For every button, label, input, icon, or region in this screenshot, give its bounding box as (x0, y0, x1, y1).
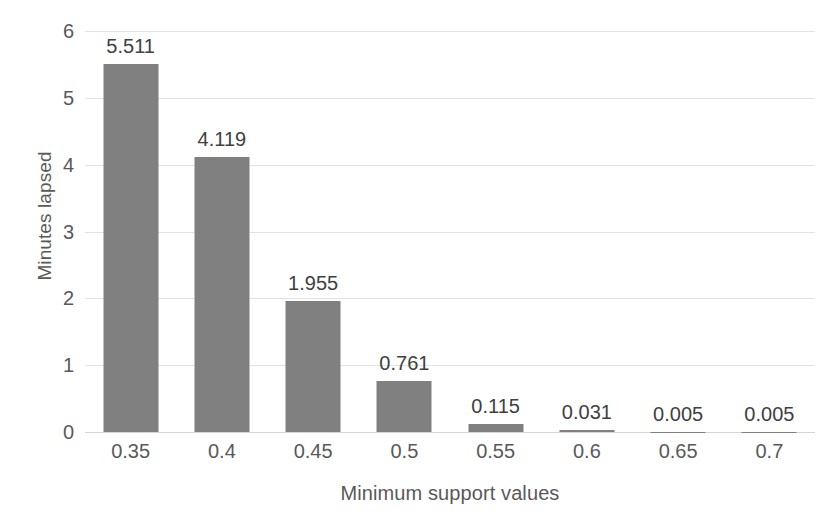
bar-value-label: 0.115 (471, 395, 520, 418)
y-axis-tick-labels: 0123456 (44, 31, 74, 432)
y-axis-tick-label: 1 (63, 354, 74, 377)
bar-value-label: 0.005 (744, 403, 794, 426)
bar-value-label: 0.761 (379, 352, 429, 375)
bar-value-label: 0.031 (562, 401, 612, 424)
y-axis-tick-label: 3 (63, 220, 74, 243)
bar-value-label: 5.511 (106, 35, 155, 58)
bar[interactable] (468, 424, 523, 432)
x-axis-tick-label: 0.7 (755, 440, 783, 463)
x-axis-tick-label: 0.35 (111, 440, 150, 463)
bars-layer: 5.5114.1191.9550.7610.1150.0310.0050.005 (85, 31, 815, 432)
x-axis-tick-label: 0.5 (390, 440, 418, 463)
bar[interactable] (377, 381, 432, 432)
bar-value-label: 0.005 (653, 403, 703, 426)
x-axis-tick-label: 0.6 (573, 440, 601, 463)
bar-group[interactable]: 0.005 (633, 31, 724, 432)
plot-area: 5.5114.1191.9550.7610.1150.0310.0050.005 (85, 31, 815, 432)
bar-group[interactable]: 4.119 (176, 31, 267, 432)
bar[interactable] (103, 64, 158, 432)
bar[interactable] (194, 157, 249, 432)
y-axis-tick-label: 5 (63, 86, 74, 109)
y-axis-tick-label: 6 (63, 20, 74, 43)
bar-value-label: 1.955 (288, 272, 338, 295)
y-axis-tick-label: 0 (63, 421, 74, 444)
bar-group[interactable]: 5.511 (85, 31, 176, 432)
bar-value-label: 4.119 (198, 128, 247, 151)
x-axis-tick-label: 0.55 (476, 440, 515, 463)
x-axis-tick-label: 0.45 (294, 440, 333, 463)
bar-group[interactable]: 0.031 (541, 31, 632, 432)
x-axis-title: Minimum support values (85, 482, 815, 505)
bar-group[interactable]: 0.115 (450, 31, 541, 432)
x-axis-tick-labels: 0.350.40.450.50.550.60.650.7 (85, 440, 815, 468)
x-axis-tick-label: 0.4 (208, 440, 236, 463)
bar-group[interactable]: 0.761 (359, 31, 450, 432)
y-axis-tick-label: 4 (63, 153, 74, 176)
bar-group[interactable]: 0.005 (724, 31, 815, 432)
bar-group[interactable]: 1.955 (268, 31, 359, 432)
bar-chart: Minutes lapsed 0123456 5.5114.1191.9550.… (0, 0, 836, 532)
bar[interactable] (286, 301, 341, 432)
y-axis-tick-label: 2 (63, 287, 74, 310)
x-axis-tick-label: 0.65 (659, 440, 698, 463)
axis-baseline (85, 432, 815, 433)
bar[interactable] (559, 430, 614, 432)
